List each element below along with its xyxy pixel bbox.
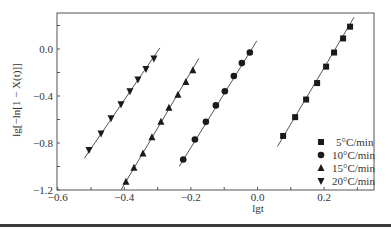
data-point <box>347 24 353 30</box>
data-point <box>97 131 104 138</box>
data-point <box>189 66 196 73</box>
fit-lines <box>84 17 354 190</box>
data-point <box>139 150 146 157</box>
legend-marker-icon <box>318 178 325 185</box>
data-point <box>331 50 337 56</box>
data-point <box>174 91 181 98</box>
data-point <box>231 73 238 80</box>
legend: 5°C/min10°C/min15°C/min20°C/min <box>318 136 376 187</box>
y-tick-label: −0.4 <box>33 90 53 102</box>
data-point <box>107 115 114 122</box>
legend-marker-icon <box>318 139 324 145</box>
y-axis-title: lg[−ln[1 − X(t)]] <box>10 63 23 137</box>
page-divider <box>0 224 391 227</box>
legend-label: 5°C/min <box>336 136 374 148</box>
data-point <box>122 178 129 185</box>
lnln-conversion-scatter-chart: −0.6−0.4−0.20.00.2 0.0−0.4−0.8−1.2 lgt l… <box>0 0 391 230</box>
data-point <box>340 35 346 41</box>
data-point <box>180 156 187 163</box>
data-point <box>192 136 199 143</box>
data-point <box>239 60 246 67</box>
data-point <box>323 64 329 70</box>
plot-frame <box>57 13 374 190</box>
data-point <box>247 49 254 56</box>
data-point <box>182 78 189 85</box>
data-point <box>314 80 320 86</box>
data-point <box>213 102 220 109</box>
x-axis-title: lgt <box>252 202 264 214</box>
data-point <box>280 133 286 139</box>
y-tick-label: −0.8 <box>33 137 53 149</box>
data-point <box>222 88 229 95</box>
data-point <box>150 55 157 62</box>
data-point <box>203 119 210 126</box>
data-point <box>117 101 124 108</box>
legend-marker-icon <box>318 164 325 171</box>
x-tick-label: −0.2 <box>181 191 201 203</box>
y-tick-label: 0.0 <box>39 43 53 55</box>
legend-label: 20°C/min <box>332 175 375 187</box>
y-axis-ticks: 0.0−0.4−0.8−1.2 <box>33 26 60 197</box>
data-point <box>86 147 93 154</box>
y-tick-label: −1.2 <box>33 184 53 196</box>
x-axis-ticks: −0.6−0.4−0.20.00.2 <box>48 187 358 203</box>
x-tick-label: 0.2 <box>317 191 331 203</box>
data-point <box>126 88 133 95</box>
plot-border <box>57 13 374 190</box>
data-point <box>134 77 141 84</box>
legend-label: 15°C/min <box>332 162 375 174</box>
data-point <box>292 114 298 120</box>
data-markers <box>86 24 354 185</box>
legend-marker-icon <box>318 152 325 159</box>
data-point <box>303 97 309 103</box>
legend-label: 10°C/min <box>332 149 375 161</box>
x-tick-label: −0.4 <box>114 191 134 203</box>
